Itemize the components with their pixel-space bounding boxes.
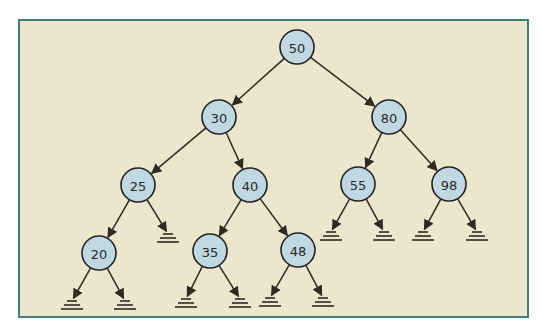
edge-arrow xyxy=(332,199,349,230)
edge-arrow xyxy=(400,130,437,171)
node-label: 48 xyxy=(290,244,307,259)
edge-arrow xyxy=(272,265,290,296)
edge-arrow xyxy=(424,199,440,229)
edge-arrow xyxy=(187,266,202,296)
null-ground-icon xyxy=(320,232,342,240)
edge-arrow xyxy=(147,199,167,231)
edge-arrow xyxy=(152,128,206,173)
null-ground-icon xyxy=(373,232,395,240)
node-label: 30 xyxy=(211,111,228,126)
node-label: 40 xyxy=(242,179,259,194)
null-ground-icon xyxy=(259,298,281,306)
nodes-layer: 50308025405598203548 xyxy=(82,30,466,270)
node-label: 20 xyxy=(91,247,108,262)
edge-arrow xyxy=(107,268,123,298)
edge-arrow xyxy=(108,200,130,238)
tree-node-30: 30 xyxy=(202,100,236,134)
node-label: 35 xyxy=(202,245,219,260)
edge-arrow xyxy=(311,57,375,106)
tree-node-98: 98 xyxy=(432,167,466,201)
edge-arrow xyxy=(232,58,284,105)
edge-arrow xyxy=(260,199,287,236)
node-label: 50 xyxy=(289,41,306,56)
node-label: 80 xyxy=(381,111,398,126)
tree-node-35: 35 xyxy=(193,234,227,268)
tree-node-40: 40 xyxy=(233,168,267,202)
null-ground-icon xyxy=(61,301,83,309)
edge-arrow xyxy=(73,268,90,299)
edge-arrow xyxy=(219,265,238,296)
null-ground-icon xyxy=(114,301,136,309)
null-ground-icon xyxy=(312,298,334,306)
edge-arrow xyxy=(366,199,382,229)
edge-arrow xyxy=(219,200,241,236)
edge-arrow xyxy=(366,132,382,167)
null-ground-icon xyxy=(466,232,488,240)
tree-node-80: 80 xyxy=(372,100,406,134)
null-ground-icon xyxy=(412,232,434,240)
edge-arrow xyxy=(306,265,322,295)
node-label: 55 xyxy=(350,178,367,193)
null-ground-icon xyxy=(175,299,197,307)
node-label: 25 xyxy=(130,179,147,194)
node-label: 98 xyxy=(441,178,458,193)
tree-node-25: 25 xyxy=(121,168,155,202)
null-leaves-layer xyxy=(61,232,488,309)
null-ground-icon xyxy=(157,234,179,242)
edge-arrow xyxy=(458,199,476,230)
binary-search-tree: 50308025405598203548 xyxy=(0,0,543,333)
edge-arrow xyxy=(226,132,242,168)
tree-node-55: 55 xyxy=(341,167,375,201)
tree-node-48: 48 xyxy=(281,233,315,267)
tree-node-50: 50 xyxy=(280,30,314,64)
tree-node-20: 20 xyxy=(82,236,116,270)
null-ground-icon xyxy=(229,299,251,307)
